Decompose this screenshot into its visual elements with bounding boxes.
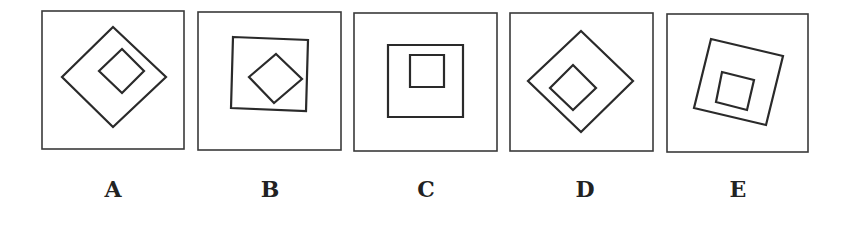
option-d-panel[interactable]: [510, 13, 653, 151]
option-e-label: E: [730, 176, 747, 202]
panel-frame: [667, 14, 808, 152]
option-b-panel[interactable]: [198, 12, 341, 150]
panel-frame: [198, 12, 341, 150]
option-a-panel[interactable]: [42, 11, 184, 149]
option-e-panel[interactable]: [667, 14, 808, 152]
option-d-label: D: [575, 176, 594, 202]
option-b-label: B: [261, 176, 280, 202]
option-a-label: A: [104, 176, 121, 202]
panel-frame: [354, 13, 497, 151]
option-c-panel[interactable]: [354, 13, 497, 151]
option-c-label: C: [417, 176, 435, 202]
